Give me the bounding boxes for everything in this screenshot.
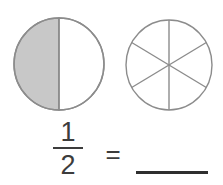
equals-sign: = [100,141,126,167]
fraction-one-half: 1 2 [48,118,88,179]
shaded-half-sector [14,18,59,110]
fraction-bar [53,147,83,149]
worksheet-canvas: 1 2 = [0,0,223,185]
answer-blank-line[interactable] [136,171,208,174]
half-shaded-circle [12,15,108,113]
half-shaded-circle-svg [12,15,108,113]
sixths-circle [123,17,217,115]
fraction-denominator: 2 [48,151,88,179]
sixths-circle-svg [123,17,217,115]
fraction-numerator: 1 [48,118,88,147]
unshaded-half-sector [59,18,104,110]
equation-row: 1 2 = [0,118,223,185]
